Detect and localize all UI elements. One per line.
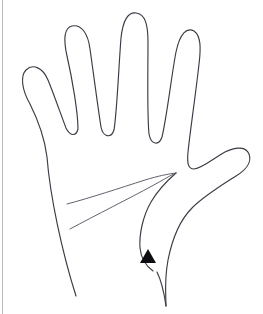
triangle-pointer-marker xyxy=(140,249,156,263)
wrist-right-edge xyxy=(157,272,166,306)
palm-creases-group xyxy=(67,173,176,229)
palm-crease-upper xyxy=(67,173,176,204)
hand-outline-group xyxy=(23,13,250,306)
palm-crease-lower xyxy=(70,173,176,229)
hand-drawing-svg: Hand outline line drawing with triangula… xyxy=(0,0,263,314)
hand-outline xyxy=(23,13,250,306)
drawing-canvas: Hand outline line drawing with triangula… xyxy=(0,0,263,314)
